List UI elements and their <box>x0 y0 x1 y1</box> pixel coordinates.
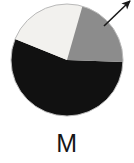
chart-label: M <box>0 128 134 158</box>
pie-slices-group <box>11 4 123 116</box>
leader-arrow-icon <box>104 1 130 26</box>
pie-chart-figure: M <box>0 0 134 163</box>
